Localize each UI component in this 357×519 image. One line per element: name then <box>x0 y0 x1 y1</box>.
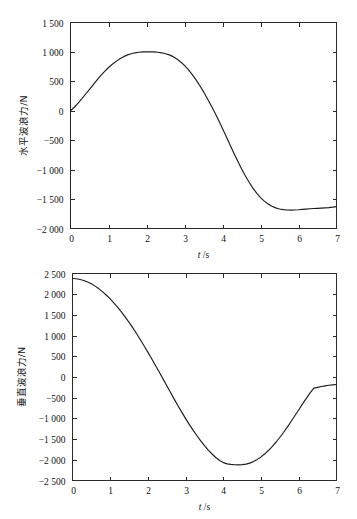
x-axis-title: t /s <box>199 502 211 512</box>
data-curve <box>73 278 337 464</box>
axes-frame <box>73 274 337 481</box>
x-tick-label: 0 <box>69 234 74 244</box>
y-tick-label: 0 <box>61 373 66 383</box>
x-tick-label: 7 <box>335 486 340 496</box>
plot-area-horizontal: −2 000−1 500−1 000−50005001 0001 5000123… <box>0 0 357 259</box>
x-tick-label: 1 <box>108 486 113 496</box>
x-tick-label: 4 <box>221 234 226 244</box>
x-axis-title: t /s <box>198 250 210 260</box>
x-tick-label: 3 <box>183 234 188 244</box>
y-tick-label: 2 000 <box>44 290 66 300</box>
y-tick-label: −2 000 <box>39 456 66 466</box>
y-axis-title: 垂直波浪力/N <box>16 347 27 407</box>
y-tick-label: −1 500 <box>37 195 64 205</box>
y-tick-label: 0 <box>59 107 64 117</box>
x-tick-label: 5 <box>259 486 264 496</box>
x-tick-label: 2 <box>145 234 150 244</box>
x-tick-label: 0 <box>71 486 76 496</box>
x-tick-label: 4 <box>221 486 226 496</box>
y-tick-label: 2 500 <box>44 270 66 280</box>
x-tick-label: 3 <box>184 486 189 496</box>
y-tick-label: −2 000 <box>37 225 64 235</box>
y-tick-label: 500 <box>51 352 66 362</box>
x-tick-label: 5 <box>259 234 264 244</box>
x-tick-label: 1 <box>107 234 112 244</box>
data-curve <box>71 52 337 210</box>
x-tick-label: 7 <box>335 234 340 244</box>
y-tick-label: −1 000 <box>37 166 64 176</box>
y-tick-label: 500 <box>49 77 64 87</box>
y-tick-label: 1 000 <box>42 48 64 58</box>
y-tick-label: −2 500 <box>39 477 66 487</box>
y-axis-title: 水平波浪力/N <box>18 95 29 155</box>
x-tick-label: 6 <box>297 486 302 496</box>
x-tick-label: 2 <box>146 486 151 496</box>
chart-vertical-wave-force: −2 500−2 000−1 500−1 000−50005001 0001 5… <box>0 260 357 519</box>
y-tick-label: −500 <box>44 136 64 146</box>
plot-area-vertical: −2 500−2 000−1 500−1 000−50005001 0001 5… <box>0 260 357 519</box>
y-tick-label: −1 500 <box>39 435 66 445</box>
y-tick-label: −500 <box>46 394 66 404</box>
y-tick-label: 1 500 <box>42 19 64 29</box>
axes-frame <box>71 23 337 229</box>
y-tick-label: 1 000 <box>44 332 66 342</box>
chart-horizontal-wave-force: −2 000−1 500−1 000−50005001 0001 5000123… <box>0 0 357 259</box>
y-tick-label: −1 000 <box>39 414 66 424</box>
y-tick-label: 1 500 <box>44 311 66 321</box>
x-tick-label: 6 <box>297 234 302 244</box>
